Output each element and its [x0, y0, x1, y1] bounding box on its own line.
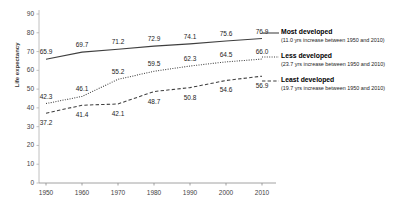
legend-item[interactable]: Most developed(11.0 yrs increase between… [281, 28, 385, 44]
legend-item-title: Most developed [281, 28, 385, 36]
legend-item-note: (11.0 yrs increase between 1950 and 2010… [281, 36, 385, 44]
legend-item-note: (19.7 yrs increase between 1950 and 2010… [281, 84, 385, 92]
legend-item-title: Least developed [281, 76, 385, 84]
life-expectancy-line-chart: Life expectancy 0102030405060708090 1950… [0, 0, 412, 220]
legend-item-title: Less developed [281, 52, 385, 60]
legend-item[interactable]: Less developed(23.7 yrs increase between… [281, 52, 385, 68]
legend-item[interactable]: Least developed(19.7 yrs increase betwee… [281, 76, 385, 92]
legend-item-note: (23.7 yrs increase between 1950 and 2010… [281, 60, 385, 68]
